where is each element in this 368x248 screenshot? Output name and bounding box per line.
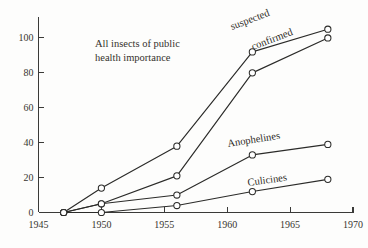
series-inline-labels: suspected confirmed Anophelines Culicine… [227, 7, 295, 188]
x-tick-label-1970: 1970 [343, 219, 363, 230]
series-label-confirmed: confirmed [250, 26, 295, 52]
x-tick-label-1950: 1950 [91, 219, 111, 230]
data-point-anophelines-1962 [249, 152, 255, 158]
annotation-line-2: health importance [95, 52, 171, 63]
annotation-block: All insects of public health importance [95, 38, 180, 63]
y-tick-label-40: 40 [24, 137, 34, 148]
data-point-culicines-1947 [61, 209, 67, 215]
chart-container: 020406080100 194519501955196019651970 Al… [0, 0, 368, 248]
data-point-confirmed-1968 [325, 35, 331, 41]
series-label-culicines: Culicines [247, 172, 288, 188]
y-tick-label-80: 80 [24, 67, 34, 78]
x-tick-label-1955: 1955 [154, 219, 174, 230]
x-axis-ticks [101, 207, 353, 213]
data-point-culicines-1956 [174, 202, 180, 208]
y-tick-label-0: 0 [29, 207, 34, 218]
data-point-confirmed-1962 [249, 70, 255, 76]
data-point-suspected-1968 [325, 26, 331, 32]
y-axis-tick-labels: 020406080100 [19, 32, 34, 218]
series-label-suspected: suspected [229, 7, 272, 32]
x-tick-label-1945: 1945 [29, 219, 49, 230]
insect-resistance-line-chart: 020406080100 194519501955196019651970 Al… [0, 0, 368, 248]
data-point-suspected-1950 [98, 185, 104, 191]
data-point-suspected-1956 [174, 143, 180, 149]
annotation-line-1: All insects of public [95, 38, 180, 49]
y-tick-label-100: 100 [19, 32, 34, 43]
series-label-anophelines: Anophelines [227, 130, 281, 149]
series-line-culicines [64, 179, 328, 212]
data-point-culicines-1968 [325, 176, 331, 182]
data-point-culicines-1962 [249, 188, 255, 194]
data-point-anophelines-1968 [325, 141, 331, 147]
x-tick-label-1965: 1965 [280, 219, 300, 230]
data-point-anophelines-1950 [98, 201, 104, 207]
y-tick-label-20: 20 [24, 172, 34, 183]
x-axis-tick-labels: 194519501955196019651970 [29, 219, 364, 230]
y-tick-label-60: 60 [24, 102, 34, 113]
x-tick-label-1960: 1960 [217, 219, 237, 230]
data-point-anophelines-1956 [174, 192, 180, 198]
data-point-culicines-1950 [98, 209, 104, 215]
data-point-confirmed-1956 [174, 173, 180, 179]
y-axis-ticks [39, 38, 45, 213]
